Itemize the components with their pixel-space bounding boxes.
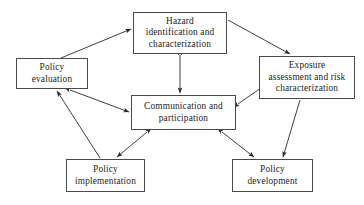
node-policy-implementation[interactable]: Policy implementation [66,159,145,192]
edge-evaluation-communication [70,90,129,112]
edge-evaluation-to-hazard [61,29,131,58]
node-hazard-identification[interactable]: Hazard identification and characterizati… [133,12,227,54]
node-exposure-assessment[interactable]: Exposure assessment and risk characteriz… [259,56,355,99]
node-label-communication: Communication and participation [142,101,225,124]
edge-implementation-to-evaluation [57,91,100,158]
node-label-policy-implementation: Policy implementation [73,164,138,187]
diagram-canvas: Hazard identification and characterizati… [0,0,364,205]
node-label-hazard: Hazard identification and characterizati… [144,16,217,50]
edge-communication-development [222,132,254,157]
edge-exposure-to-development [283,100,300,157]
node-label-exposure: Exposure assessment and risk characteriz… [267,60,348,94]
node-policy-development[interactable]: Policy development [232,159,313,192]
edge-hazard-to-exposure [228,20,290,54]
edge-communication-implementation [117,132,147,157]
node-label-policy-development: Policy development [245,164,299,187]
node-policy-evaluation[interactable]: Policy evaluation [16,58,88,89]
node-label-policy-evaluation: Policy evaluation [30,62,75,85]
node-communication-participation[interactable]: Communication and participation [131,95,236,130]
